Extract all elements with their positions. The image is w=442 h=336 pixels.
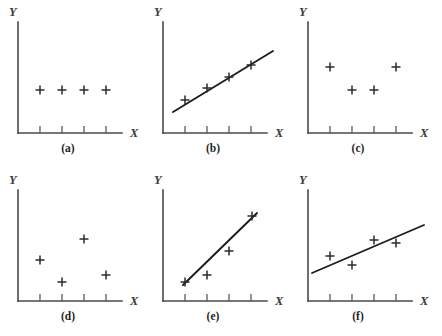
data-point-marker	[370, 236, 379, 245]
panel-caption-d: (d)	[61, 310, 75, 323]
x-axis-label: X	[419, 294, 429, 308]
scatter-panel-d: YX(d)	[0, 168, 145, 336]
data-point-marker	[348, 86, 357, 95]
x-axis-label: X	[129, 126, 139, 140]
data-point-marker	[348, 261, 357, 270]
y-axis-label: Y	[154, 173, 163, 187]
data-point-marker	[58, 86, 67, 95]
data-point-marker	[102, 271, 111, 280]
data-point-marker	[392, 63, 401, 72]
panel-caption-f: (f)	[352, 310, 364, 323]
data-point-marker	[392, 239, 401, 248]
x-axis-label: X	[274, 126, 284, 140]
panel-caption-a: (a)	[61, 142, 75, 155]
regression-line	[183, 213, 257, 285]
data-point-marker	[58, 278, 67, 287]
x-axis-label: X	[274, 294, 284, 308]
figure-root: YX(a)YX(b)YX(c)YX(d)YX(e)YX(f)	[0, 0, 442, 336]
scatter-panel-f: YX(f)	[290, 168, 435, 336]
data-point-marker	[326, 252, 335, 261]
data-point-marker	[326, 63, 335, 72]
scatter-panel-a: YX(a)	[0, 0, 145, 168]
panel-caption-e: (e)	[207, 310, 220, 323]
data-point-marker	[370, 86, 379, 95]
x-axis-label: X	[419, 126, 429, 140]
data-point-marker	[203, 271, 212, 280]
data-point-marker	[203, 84, 212, 93]
panel-caption-c: (c)	[352, 142, 365, 155]
scatter-panel-e: YX(e)	[145, 168, 290, 336]
scatter-panel-c: YX(c)	[290, 0, 435, 168]
data-point-marker	[102, 86, 111, 95]
y-axis-label: Y	[299, 173, 308, 187]
scatter-panel-b: YX(b)	[145, 0, 290, 168]
data-point-marker	[36, 256, 45, 265]
data-point-marker	[36, 86, 45, 95]
regression-line	[312, 225, 424, 273]
panel-caption-b: (b)	[206, 142, 220, 155]
y-axis-label: Y	[154, 5, 163, 19]
y-axis-label: Y	[9, 5, 18, 19]
data-point-marker	[225, 247, 234, 256]
y-axis-label: Y	[9, 173, 18, 187]
data-point-marker	[248, 212, 257, 221]
regression-line	[173, 51, 273, 112]
data-point-marker	[80, 235, 89, 244]
x-axis-label: X	[129, 294, 139, 308]
data-point-marker	[80, 86, 89, 95]
y-axis-label: Y	[299, 5, 308, 19]
